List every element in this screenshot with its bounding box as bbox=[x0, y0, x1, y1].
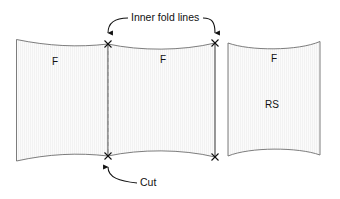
inner-fold-leader-left bbox=[108, 18, 128, 33]
left-panel-shape bbox=[17, 40, 109, 162]
left-panel-label-f: F bbox=[52, 56, 58, 67]
right-panel: F RS bbox=[228, 42, 320, 157]
inner-fold-leader-right bbox=[203, 18, 215, 33]
inner-fold-lines-label: Inner fold lines bbox=[131, 11, 199, 23]
right-panel-label-f: F bbox=[271, 53, 277, 64]
callout-cut: Cut bbox=[108, 167, 156, 188]
callout-inner-fold-lines: Inner fold lines bbox=[108, 11, 215, 33]
middle-panel-label-f: F bbox=[160, 54, 166, 65]
middle-panel: F bbox=[108, 43, 215, 157]
left-panel: F bbox=[17, 40, 109, 162]
right-panel-label-rs: RS bbox=[265, 99, 279, 110]
cut-label: Cut bbox=[140, 176, 156, 188]
cut-leader-line bbox=[108, 167, 137, 183]
diagram-canvas: F F F RS bbox=[0, 0, 340, 199]
fabric-fold-diagram: F F F RS bbox=[0, 0, 340, 199]
